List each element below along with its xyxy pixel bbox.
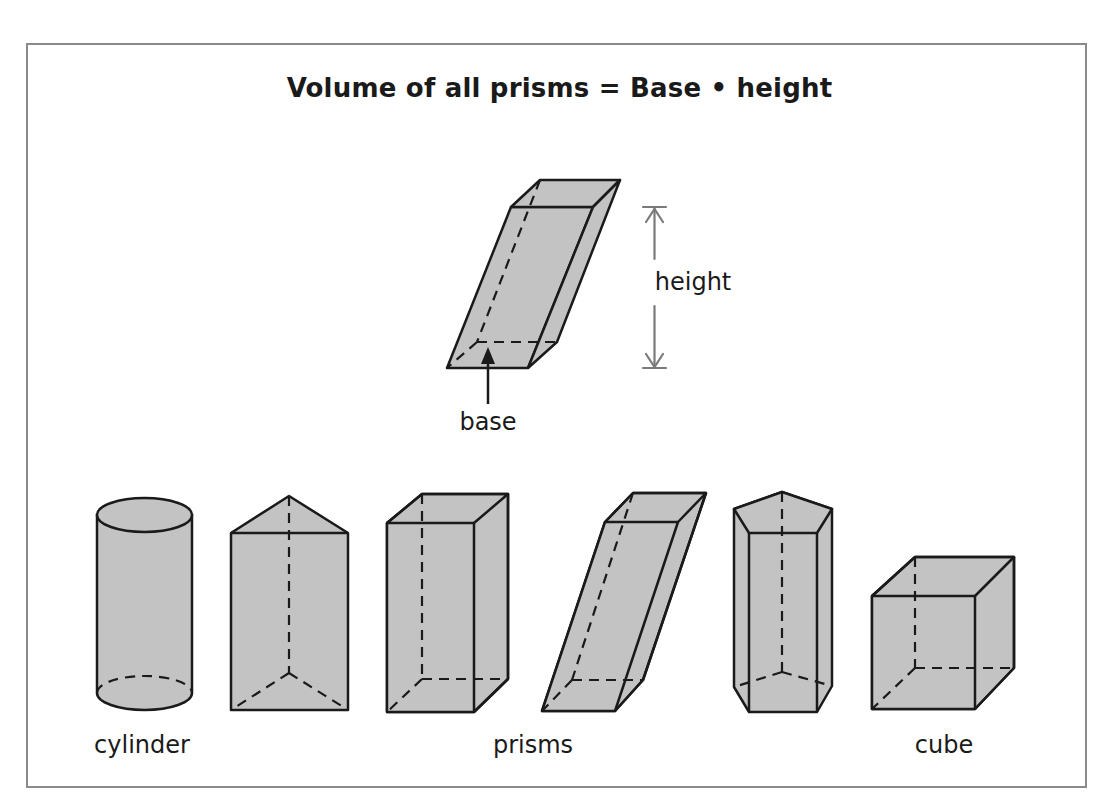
oblique-prism-shape [542, 493, 706, 711]
main-oblique-prism [447, 180, 620, 368]
rectangular-prism-shape [387, 494, 508, 712]
height-label: height [655, 268, 732, 296]
cylinder-label: cylinder [94, 731, 190, 759]
cube-shape [872, 557, 1014, 709]
cylinder-shape [97, 498, 192, 710]
prisms-label: prisms [493, 731, 573, 759]
triangular-prism-shape [231, 496, 348, 710]
base-label: base [459, 408, 516, 436]
prism-diagram [0, 0, 1119, 808]
cube-label: cube [915, 731, 973, 759]
pentagonal-prism-shape [734, 492, 832, 712]
